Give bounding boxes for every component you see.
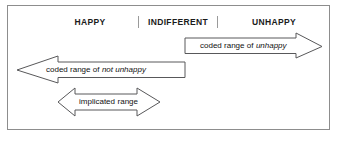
caption-emphasis-not-unhappy: not unhappy <box>102 65 146 74</box>
caption-coded-range-not-unhappy: coded range ofnot unhappy <box>46 64 146 75</box>
caption-coded-range-unhappy: coded range ofunhappy <box>200 40 287 51</box>
caption-prefix-unhappy: coded range of <box>200 41 253 50</box>
caption-prefix-implicated: implicated <box>79 97 115 106</box>
caption-prefix-not-unhappy: coded range of <box>46 65 99 74</box>
caption-emphasis-unhappy: unhappy <box>256 41 287 50</box>
caption-implicated-range: implicatedrange <box>79 96 138 107</box>
diagram-canvas: HAPPY INDIFFERENT UNHAPPY coded range of… <box>0 0 338 141</box>
caption-emphasis-implicated: range <box>118 97 138 106</box>
